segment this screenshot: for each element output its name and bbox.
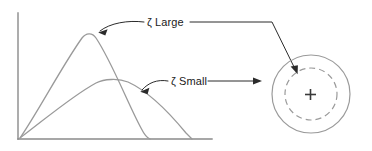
zeta-large-target-leader-line	[190, 22, 296, 71]
zeta-large-target-leader-arrowhead	[291, 65, 298, 74]
zeta-small-curve-leader-arrowhead	[140, 88, 149, 95]
target-center-cross	[305, 89, 316, 100]
zeta-large-curve-leader-arrowhead	[98, 29, 107, 35]
zeta-large-curve-leader-line	[100, 21, 144, 31]
zeta-large-curve-leader	[98, 21, 144, 35]
target-diagram	[272, 55, 350, 133]
zeta-small-curve-leader-line	[142, 80, 168, 90]
zeta-small-label: ζ Small	[171, 75, 207, 88]
zeta-small-target-leader	[208, 77, 262, 84]
zeta-small-curve-leader	[140, 80, 168, 94]
zeta-small-target-leader-arrowhead	[253, 77, 262, 84]
zeta-large-label: ζ Large	[147, 16, 184, 29]
zeta-small-curve	[20, 79, 192, 139]
zeta-large-target-leader	[190, 22, 298, 74]
plot-curves	[20, 34, 192, 139]
figure-root: ζ Large ζ Small	[0, 0, 372, 151]
